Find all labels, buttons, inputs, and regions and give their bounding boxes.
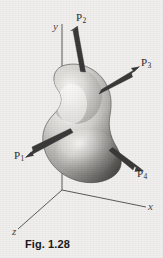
force-label-p2-subscript: 2 [82,16,86,25]
force-label-p4: P4 [137,168,147,179]
axis-line-z [18,190,62,229]
force-label-p3: P3 [141,57,151,68]
figure-caption: Fig. 1.28 [25,238,70,250]
axis-label-x: x [148,201,153,212]
force-label-p1: P1 [14,150,24,161]
axis-label-y: y [53,21,58,32]
force-label-p4-subscript: 4 [143,172,147,181]
force-label-p3-subscript: 3 [147,61,151,70]
axis-line-x [62,190,146,207]
force-label-p2: P2 [76,12,86,23]
axis-label-z: z [12,226,16,237]
force-label-p1-subscript: 1 [20,154,24,163]
figure-1-28: y x z P1 P2 P3 P4 Fig. 1.28 [0,0,163,258]
deformable-body [43,64,122,183]
force-arrow-p3 [99,67,140,95]
figure-canvas [0,0,163,258]
